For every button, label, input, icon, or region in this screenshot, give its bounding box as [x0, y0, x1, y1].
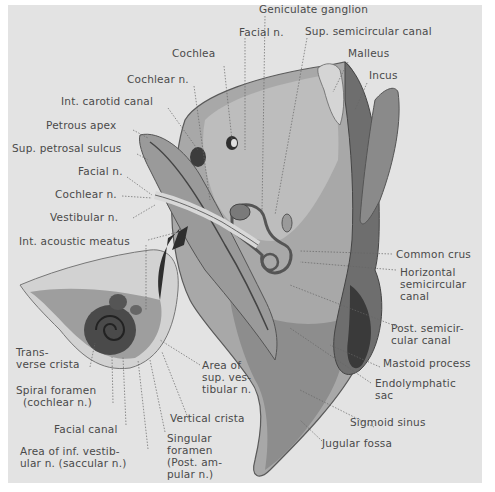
label-sup-semicircular-canal: Sup. semicircular canal [305, 25, 432, 37]
label-int-carotid-canal: Int. carotid canal [61, 95, 153, 107]
label-jugular-fossa: Jugular fossa [322, 437, 392, 449]
label-area-sup-vestibular-n: Area of sup. ves- tibular n. [202, 359, 251, 395]
label-incus: Incus [369, 69, 398, 81]
label-malleus: Malleus [348, 47, 389, 59]
spiral-foramen-region [84, 305, 136, 355]
label-sigmoid-sinus: Sigmoid sinus [350, 416, 426, 428]
label-vestibular-n: Vestibular n. [50, 211, 118, 223]
label-common-crus: Common crus [396, 248, 471, 260]
label-singular-foramen: Singular foramen (Post. am- pular n.) [167, 432, 222, 480]
label-spiral-foramen: Spiral foramen (cochlear n.) [16, 384, 96, 408]
label-post-semicircular-canal: Post. semicir- cular canal [391, 322, 464, 346]
label-geniculate-ganglion: Geniculate ganglion [259, 3, 368, 15]
label-facial-canal: Facial canal [54, 423, 118, 435]
label-facial-n-top: Facial n. [239, 26, 284, 38]
label-cochlea: Cochlea [172, 47, 215, 59]
label-transverse-crista: Trans- verse crista [16, 346, 80, 370]
label-petrous-apex: Petrous apex [46, 119, 117, 131]
label-cochlear-n-top: Cochlear n. [127, 73, 189, 85]
label-mastoid-process: Mastoid process [383, 357, 471, 369]
label-int-acoustic-meatus: Int. acoustic meatus [19, 235, 130, 247]
label-vertical-crista: Vertical crista [170, 412, 245, 424]
label-cochlear-n-left: Cochlear n. [55, 188, 117, 200]
label-sup-petrosal-sulcus: Sup. petrosal sulcus [12, 142, 122, 154]
label-facial-n-left: Facial n. [78, 165, 123, 177]
label-endolymphatic-sac: Endolymphatic sac [375, 377, 456, 401]
label-area-inf-vestibular-n: Area of inf. vestib- ular n. (saccular n… [20, 445, 127, 469]
label-horizontal-semicircular-canal: Horizontal semicircular canal [400, 266, 466, 302]
